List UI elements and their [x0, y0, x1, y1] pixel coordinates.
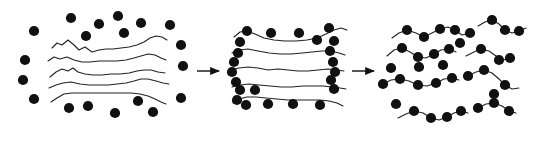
nanoparticle	[397, 43, 407, 53]
nanoparticle	[386, 63, 396, 73]
nanoparticle	[29, 94, 39, 104]
nanoparticle	[463, 71, 473, 81]
nanoparticle	[229, 57, 239, 67]
nanoparticle	[431, 78, 441, 88]
nanoparticle	[315, 100, 325, 110]
nanoparticle	[500, 25, 510, 35]
nanoparticle	[113, 11, 123, 21]
nanoparticle	[136, 18, 146, 28]
nanoparticle	[20, 55, 30, 65]
nanoparticle	[250, 85, 260, 95]
nanoparticle	[235, 37, 245, 47]
nanoparticle	[312, 35, 322, 45]
nanoparticle	[133, 96, 143, 106]
nanoparticle	[444, 44, 454, 54]
nanoparticle	[489, 89, 499, 99]
nanoparticle	[476, 44, 486, 54]
nanoparticle	[442, 112, 452, 122]
nanoparticle	[227, 67, 237, 77]
nanoparticle	[119, 28, 129, 38]
nanoparticle	[504, 106, 514, 116]
nanoparticle	[414, 62, 424, 72]
nanoparticle	[148, 107, 158, 117]
nanoparticle	[402, 25, 412, 35]
nanoparticle	[176, 93, 186, 103]
nanoparticle	[81, 31, 91, 41]
nanoparticle	[514, 26, 524, 36]
nanoparticle	[447, 73, 457, 83]
nanoparticle	[329, 84, 339, 94]
nanoparticle	[241, 100, 251, 110]
nanoparticle	[494, 55, 504, 65]
nanoparticle	[489, 98, 499, 108]
nanoparticle	[165, 20, 175, 30]
nanoparticle	[500, 80, 510, 90]
nanoparticle	[409, 106, 419, 116]
nanoparticle	[505, 53, 515, 63]
nanoparticle	[66, 13, 76, 23]
nanoparticle	[242, 26, 252, 36]
nanoparticle	[288, 99, 298, 109]
schematic-figure	[0, 0, 542, 142]
nanoparticle	[64, 103, 74, 113]
nanoparticle	[235, 85, 245, 95]
nanoparticle	[110, 108, 120, 118]
nanoparticle	[329, 36, 339, 46]
nanoparticle	[294, 28, 304, 38]
nanoparticle	[473, 103, 483, 113]
nanoparticle	[266, 28, 276, 38]
nanoparticle	[324, 23, 334, 33]
nanoparticle	[326, 75, 336, 85]
nanoparticle	[435, 24, 445, 34]
nanoparticle	[263, 99, 273, 109]
nanoparticle	[429, 49, 439, 59]
nanoparticle	[487, 15, 497, 25]
nanoparticle	[178, 61, 188, 71]
nanoparticle	[176, 40, 186, 50]
nanoparticle	[232, 95, 242, 105]
nanoparticle	[395, 74, 405, 84]
nanoparticle	[29, 26, 39, 36]
nanoparticle	[325, 46, 335, 56]
figure-background	[0, 0, 542, 142]
nanoparticle	[18, 75, 28, 85]
nanoparticle	[413, 80, 423, 90]
nanoparticle	[83, 101, 93, 111]
nanoparticle	[378, 79, 388, 89]
nanoparticle	[455, 38, 465, 48]
nanoparticle	[465, 28, 475, 38]
nanoparticle	[456, 106, 466, 116]
nanoparticle	[450, 25, 460, 35]
morphology-evolution-diagram	[0, 0, 542, 142]
nanoparticle	[328, 57, 338, 67]
nanoparticle	[438, 60, 448, 70]
nanoparticle	[94, 19, 104, 29]
nanoparticle	[391, 99, 401, 109]
nanoparticle	[233, 48, 243, 58]
nanoparticle	[419, 32, 429, 42]
nanoparticle	[413, 52, 423, 62]
nanoparticle	[479, 65, 489, 75]
nanoparticle	[426, 113, 436, 123]
